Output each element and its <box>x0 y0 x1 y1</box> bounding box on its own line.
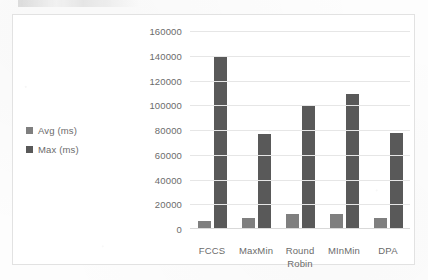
y-axis-tick-label: 0 <box>177 224 182 235</box>
x-axis: FCCSMaxMinRoundRobinMInMinDPA <box>190 245 410 270</box>
bar[interactable] <box>258 134 271 228</box>
y-axis-tick-label: 160000 <box>149 26 182 37</box>
legend-swatch-icon-max <box>26 146 33 153</box>
legend-swatch-icon-avg <box>26 127 33 134</box>
plot-wrapper: 1600001400001200001000008000060000400002… <box>144 31 414 243</box>
gridline <box>190 81 410 82</box>
y-axis-tick-label: 100000 <box>149 100 182 111</box>
x-axis-tick-label: FCCS <box>190 245 234 270</box>
gridline <box>190 180 410 181</box>
legend-label-max: Max (ms) <box>38 144 79 155</box>
legend-label-avg: Avg (ms) <box>38 125 77 136</box>
bar[interactable] <box>346 94 359 228</box>
gridline <box>190 155 410 156</box>
bar[interactable] <box>302 105 315 228</box>
gridline <box>190 204 410 205</box>
y-axis-tick-label: 80000 <box>155 125 182 136</box>
chart-frame: Avg (ms) Max (ms) 1600001400001200001000… <box>12 14 415 265</box>
y-axis-tick-label: 120000 <box>149 75 182 86</box>
legend-item-avg[interactable]: Avg (ms) <box>26 121 104 140</box>
bar[interactable] <box>390 133 403 228</box>
scan-artifact <box>18 0 138 7</box>
bar[interactable] <box>198 221 211 228</box>
y-axis-tick-label: 20000 <box>155 199 182 210</box>
bar[interactable] <box>374 218 387 228</box>
chart-legend: Avg (ms) Max (ms) <box>26 121 104 159</box>
x-axis-tick-label: MaxMin <box>234 245 278 270</box>
bar[interactable] <box>214 57 227 228</box>
gridline <box>190 105 410 106</box>
x-axis-tick-label: MInMin <box>322 245 366 270</box>
y-axis: 1600001400001200001000008000060000400002… <box>144 31 186 229</box>
x-axis-line <box>190 228 410 229</box>
plot-area <box>190 31 410 229</box>
gridline <box>190 31 410 32</box>
x-axis-tick-label: RoundRobin <box>278 245 322 270</box>
bar[interactable] <box>286 214 299 228</box>
y-axis-tick-label: 40000 <box>155 174 182 185</box>
x-axis-tick-label: DPA <box>366 245 410 270</box>
y-axis-tick-label: 60000 <box>155 149 182 160</box>
y-axis-tick-label: 140000 <box>149 50 182 61</box>
bar[interactable] <box>330 214 343 228</box>
gridline <box>190 56 410 57</box>
legend-item-max[interactable]: Max (ms) <box>26 140 104 159</box>
gridline <box>190 130 410 131</box>
bar[interactable] <box>242 218 255 228</box>
